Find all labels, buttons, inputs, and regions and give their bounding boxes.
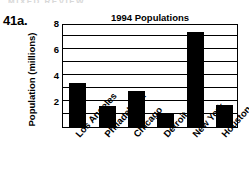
bar-chart-figure: 1994 Populations Population (millions) 8… — [0, 0, 249, 191]
y-tick-label: 2 — [54, 97, 59, 107]
x-axis-category-labels: Los AngelesPhiladelphiaChicagoDetroitNew… — [62, 128, 238, 190]
y-axis-tick-labels: 8642 — [44, 24, 59, 128]
bar — [187, 32, 204, 127]
y-tick-label: 6 — [54, 45, 59, 55]
y-tick-label: 8 — [54, 19, 59, 29]
chart-title: 1994 Populations — [62, 12, 238, 23]
y-axis-title: Population (millions) — [26, 28, 37, 132]
y-tick-label: 4 — [54, 71, 59, 81]
